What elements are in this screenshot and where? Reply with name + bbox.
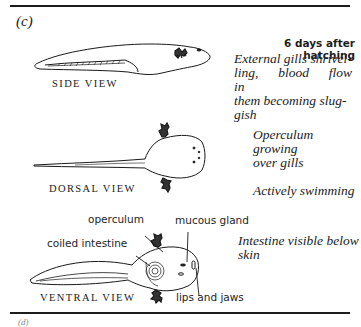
annotation-coiled-intestine: coiled intestine [47, 237, 127, 249]
dorsal-view-label: DORSAL VIEW [49, 183, 136, 194]
dorsal-desc-line-1: Operculum growing [253, 128, 361, 156]
dorsal-view-note: Actively swimming [253, 184, 355, 198]
annotation-mucous-gland: mucous gland [175, 214, 249, 226]
dorsal-view-tadpole [34, 123, 205, 192]
side-desc-line-4: gish [234, 108, 352, 122]
ventral-desc-line-2: skin [238, 248, 360, 262]
side-view-label: SIDE VIEW [52, 78, 118, 89]
ventral-desc-line-1: Intestine visible below [238, 234, 360, 248]
side-view-tadpole [35, 44, 210, 75]
ventral-view-label: VENTRAL VIEW [40, 292, 135, 303]
next-panel-label-partial: (d) [18, 317, 29, 327]
leader-mucous-gland [187, 232, 188, 262]
annotation-operculum: operculum [88, 213, 144, 225]
annotation-lips-and-jaws: lips and jaws [176, 291, 244, 303]
side-desc-line-2: ling, blood flow in [234, 66, 352, 94]
dorsal-desc-line-2: over gills [253, 156, 361, 170]
dorsal-view-description: Operculum growing over gills [253, 128, 361, 170]
side-desc-line-1: External gills shrivel- [234, 52, 352, 66]
leader-coiled-intestine [136, 256, 150, 266]
side-desc-line-3: them becoming slug- [234, 94, 352, 108]
bottom-rule [10, 312, 350, 314]
ventral-view-description: Intestine visible below skin [238, 234, 360, 262]
side-view-description: External gills shrivel- ling, blood flow… [234, 52, 352, 122]
